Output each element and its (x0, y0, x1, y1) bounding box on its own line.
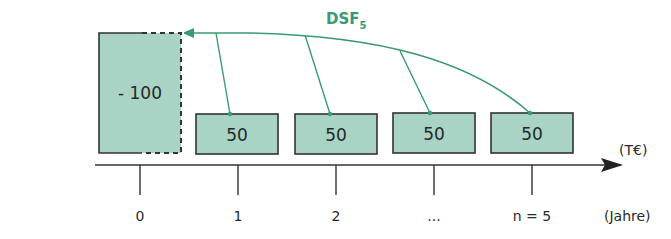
tick-label-0: 0 (136, 208, 145, 224)
discount-connectors (216, 33, 430, 114)
discount-arrow-curve (185, 33, 530, 113)
cash-flow-value: 50 (226, 125, 248, 145)
tick-label-2: 2 (332, 208, 341, 224)
tick-label-ellipsis: ... (427, 208, 440, 224)
initial-investment-value: - 100 (118, 83, 162, 103)
cash-flow-value: 50 (423, 124, 445, 144)
tick-label-n5: n = 5 (513, 208, 551, 224)
discount-factor-label: DSF5 (326, 10, 367, 31)
cash-flow-box-3: 50 (393, 113, 475, 153)
discounting-timeline-diagram: - 100 50 50 50 50 DSF5 (0, 0, 671, 239)
tick-label-1: 1 (234, 208, 243, 224)
axis-tick-labels: 0 1 2 ... n = 5 (136, 208, 552, 224)
currency-unit-label: (T€) (619, 142, 647, 158)
cash-flow-box-2: 50 (295, 114, 377, 154)
cash-flow-box-1: 50 (196, 114, 278, 154)
cash-flow-box-5: 50 (491, 113, 573, 153)
time-unit-label: (Jahre) (604, 208, 651, 224)
cash-flow-value: 50 (325, 125, 347, 145)
initial-investment-box: - 100 (99, 33, 181, 153)
cash-flow-value: 50 (521, 124, 543, 144)
axis-ticks (140, 165, 532, 195)
